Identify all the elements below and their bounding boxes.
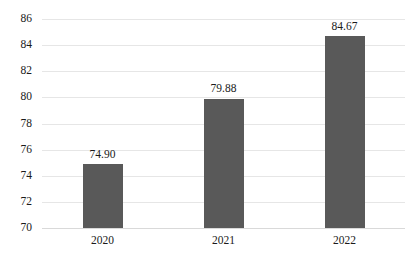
bar-chart: 86 84 82 80 78 76 74 72 70 74.90 79.88 8… [0, 0, 416, 261]
x-axis-category-label: 2022 [284, 235, 405, 247]
x-axis-category-label: 2021 [163, 235, 284, 247]
y-axis-tick-label: 80 [21, 92, 33, 104]
x-axis: 2020 2021 2022 [42, 232, 405, 254]
plot-area: 74.90 79.88 84.67 [42, 19, 405, 228]
y-axis-tick-label: 84 [21, 39, 33, 51]
y-axis-tick-label: 78 [21, 118, 33, 130]
y-axis-tick-label: 82 [21, 66, 33, 78]
y-axis-tick-label: 70 [21, 222, 33, 234]
y-axis-tick-label: 72 [21, 196, 33, 208]
y-axis-tick-label: 76 [21, 144, 33, 156]
bar[interactable] [325, 36, 365, 228]
bar-value-label: 79.88 [211, 83, 237, 95]
bar-group: 74.90 [42, 19, 163, 228]
y-axis-tick-label: 86 [21, 13, 33, 25]
gridline-baseline [42, 228, 405, 229]
x-axis-category-label: 2020 [42, 235, 163, 247]
bar-group: 79.88 [163, 19, 284, 228]
bar[interactable] [83, 164, 123, 228]
bar-value-label: 84.67 [332, 21, 358, 33]
bar-value-label: 74.90 [90, 149, 116, 161]
y-axis-tick-label: 74 [21, 170, 33, 182]
bar[interactable] [204, 99, 244, 228]
y-axis: 86 84 82 80 78 76 74 72 70 [0, 19, 38, 228]
bar-group: 84.67 [284, 19, 405, 228]
